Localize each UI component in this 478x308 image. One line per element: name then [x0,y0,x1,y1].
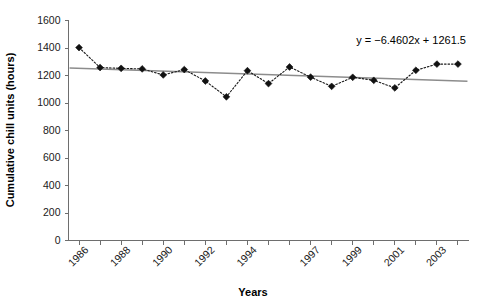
trendline-equation-label: y = −6.4602x + 1261.5 [356,34,466,46]
y-tick-label: 1200 [37,69,61,81]
x-axis-title: Years [238,286,267,298]
y-tick-label: 600 [43,151,61,163]
y-tick-label: 1000 [37,96,61,108]
y-axis-title: Cumulative chill units (hours) [4,52,16,207]
y-tick-label: 800 [43,124,61,136]
y-tick-label: 200 [43,206,61,218]
cumulative-chill-units-line-chart: 02004006008001000120014001600 Cumulative… [0,0,478,308]
chart-page: 02004006008001000120014001600 Cumulative… [0,0,478,308]
y-tick-label: 400 [43,179,61,191]
y-tick-label: 1600 [37,14,61,26]
y-tick-label: 1400 [37,41,61,53]
y-tick-label: 0 [55,234,61,246]
